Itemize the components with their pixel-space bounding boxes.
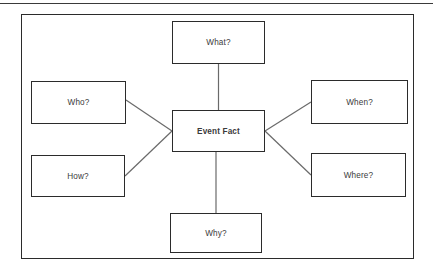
node-why-label: Why? — [205, 229, 227, 238]
node-event-fact-label: Event Fact — [197, 127, 240, 136]
node-why[interactable]: Why? — [170, 213, 262, 253]
node-when-label: When? — [346, 98, 373, 107]
node-how-label: How? — [67, 172, 89, 181]
node-what-label: What? — [206, 38, 230, 47]
diagram-canvas: What? Who? When? Event Fact How? Where? … — [0, 0, 433, 273]
node-where-label: Where? — [344, 171, 374, 180]
node-when[interactable]: When? — [311, 80, 408, 124]
node-how[interactable]: How? — [31, 155, 125, 197]
top-rule-divider — [0, 3, 433, 4]
node-who[interactable]: Who? — [31, 81, 126, 124]
node-event-fact[interactable]: Event Fact — [172, 110, 265, 152]
node-where[interactable]: Where? — [311, 153, 406, 197]
node-who-label: Who? — [68, 98, 90, 107]
node-what[interactable]: What? — [172, 21, 265, 64]
